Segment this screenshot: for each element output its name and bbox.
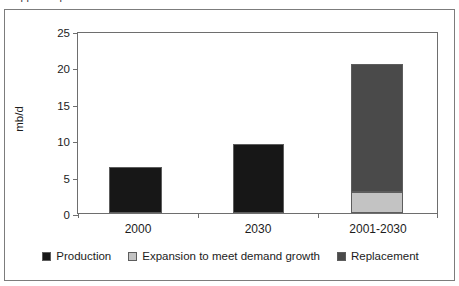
y-tick-mark bbox=[73, 142, 78, 143]
legend-item-replacement[interactable]: Replacement bbox=[337, 250, 419, 262]
x-tick-mark bbox=[78, 213, 79, 218]
y-tick-label: 0 bbox=[64, 209, 70, 221]
bar-segment-replacement[interactable] bbox=[351, 64, 403, 192]
legend-item-production[interactable]: Production bbox=[42, 250, 111, 262]
y-tick-mark bbox=[73, 69, 78, 70]
legend-swatch-production bbox=[42, 252, 51, 261]
x-axis-label-2000: 2000 bbox=[125, 222, 152, 236]
y-tick-label: 15 bbox=[57, 100, 70, 112]
bar-segment-expansion[interactable] bbox=[351, 192, 403, 213]
legend-label-production: Production bbox=[56, 250, 111, 262]
y-tick-mark bbox=[73, 33, 78, 34]
bar-group-2001-2030[interactable] bbox=[351, 31, 403, 213]
legend-swatch-replacement bbox=[337, 252, 346, 261]
legend-label-expansion: Expansion to meet demand growth bbox=[142, 250, 320, 262]
clipped-caption-strip: clipped caption line bbox=[0, 0, 459, 7]
y-tick-mark bbox=[73, 106, 78, 107]
bar-group-2000[interactable] bbox=[109, 31, 162, 213]
y-tick-label: 5 bbox=[64, 173, 70, 185]
x-axis-label-2001-2030: 2001-2030 bbox=[349, 222, 406, 236]
y-tick-mark bbox=[73, 179, 78, 180]
legend-item-expansion[interactable]: Expansion to meet demand growth bbox=[128, 250, 320, 262]
y-tick-label: 10 bbox=[57, 136, 70, 148]
bar-segment-production[interactable] bbox=[233, 144, 284, 213]
y-axis-title: mb/d bbox=[13, 106, 25, 132]
y-tick-label: 25 bbox=[57, 27, 70, 39]
figure-frame: mb/d 0 5 10 15 20 25 bbox=[4, 9, 455, 281]
x-axis-label-2030: 2030 bbox=[245, 222, 272, 236]
legend-swatch-expansion bbox=[128, 252, 137, 261]
caption-text: clipped caption line bbox=[10, 0, 104, 2]
y-tick-label: 20 bbox=[57, 63, 70, 75]
bar-group-2030[interactable] bbox=[233, 31, 284, 213]
x-tick-mark bbox=[318, 213, 319, 218]
chart-legend: Production Expansion to meet demand grow… bbox=[5, 250, 456, 262]
x-tick-mark bbox=[437, 213, 438, 218]
plot-area: 0 5 10 15 20 25 2000 2030 2001-2030 bbox=[77, 32, 438, 214]
x-tick-mark bbox=[198, 213, 199, 218]
bar-segment-production[interactable] bbox=[109, 167, 162, 213]
legend-label-replacement: Replacement bbox=[351, 250, 419, 262]
